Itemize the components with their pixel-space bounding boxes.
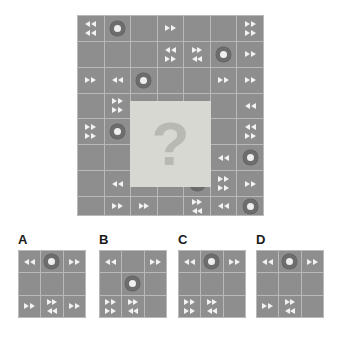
arrow-left-icon bbox=[184, 259, 189, 265]
grid-cell-blank bbox=[224, 296, 245, 317]
grid-cell-blank bbox=[78, 94, 104, 119]
arrow-row bbox=[244, 28, 256, 37]
arrow-left-icon bbox=[85, 30, 90, 36]
arrow-row bbox=[112, 76, 124, 85]
option-d-grid[interactable] bbox=[256, 250, 324, 318]
grid-cell-blank bbox=[158, 197, 184, 215]
arrow-row bbox=[206, 306, 218, 315]
grid-cell-arrows bbox=[237, 171, 263, 196]
grid-cell-blank bbox=[100, 273, 121, 294]
arrow-row bbox=[244, 19, 256, 28]
arrow-right-icon bbox=[207, 299, 212, 305]
arrow-right-icon bbox=[85, 124, 90, 130]
grid-cell-arrows bbox=[131, 197, 157, 215]
arrow-right-icon bbox=[171, 56, 176, 62]
grid-cell-arrows bbox=[179, 251, 200, 272]
arrow-row bbox=[105, 306, 117, 315]
grid-cell-blank bbox=[78, 145, 104, 170]
arrow-row bbox=[165, 54, 177, 63]
arrow-right-icon bbox=[105, 308, 110, 314]
arrow-left-icon bbox=[218, 203, 223, 209]
grid-cell-arrows bbox=[64, 296, 85, 317]
option-b-grid[interactable] bbox=[99, 250, 167, 318]
arrow-right-icon bbox=[190, 308, 195, 314]
arrow-left-icon bbox=[111, 259, 116, 265]
option-a-grid[interactable] bbox=[18, 250, 86, 318]
arrow-right-icon bbox=[85, 133, 90, 139]
grid-cell-circle bbox=[122, 273, 143, 294]
grid-cell-arrows bbox=[19, 251, 40, 272]
arrow-right-icon bbox=[245, 133, 250, 139]
option-c[interactable]: C bbox=[178, 233, 246, 318]
question-mark-glyph: ? bbox=[152, 113, 190, 175]
arrow-row bbox=[85, 132, 97, 141]
option-c-label: C bbox=[178, 233, 246, 246]
arrow-left-icon bbox=[218, 155, 223, 161]
answer-options: A B C D bbox=[0, 233, 343, 333]
arrow-right-icon bbox=[251, 133, 256, 139]
arrow-row bbox=[127, 297, 139, 306]
arrow-left-icon bbox=[268, 259, 273, 265]
grid-cell-arrows bbox=[211, 171, 237, 196]
grid-cell-blank bbox=[257, 273, 278, 294]
circle-token-icon bbox=[110, 21, 125, 36]
circle-token-icon bbox=[243, 150, 258, 165]
arrow-left-icon bbox=[171, 47, 176, 53]
grid-cell-arrows bbox=[224, 251, 245, 272]
arrow-row bbox=[85, 19, 97, 28]
grid-cell-blank bbox=[78, 171, 104, 196]
arrow-left-icon bbox=[192, 56, 197, 62]
grid-cell-blank bbox=[145, 273, 166, 294]
grid-cell-arrows bbox=[105, 197, 131, 215]
arrow-right-icon bbox=[245, 51, 250, 57]
grid-cell-blank bbox=[302, 296, 323, 317]
arrow-left-icon bbox=[128, 308, 133, 314]
grid-cell-blank bbox=[224, 273, 245, 294]
arrow-left-icon bbox=[290, 308, 295, 314]
grid-cell-arrows bbox=[237, 16, 263, 41]
arrow-row bbox=[244, 123, 256, 132]
grid-cell-blank bbox=[122, 251, 143, 272]
arrow-row bbox=[262, 257, 274, 266]
arrow-row bbox=[85, 76, 97, 85]
grid-cell-blank bbox=[201, 273, 222, 294]
arrow-right-icon bbox=[69, 303, 74, 309]
option-a[interactable]: A bbox=[18, 233, 86, 318]
arrow-row bbox=[218, 153, 230, 162]
grid-cell-blank bbox=[41, 273, 62, 294]
circle-token-icon bbox=[44, 254, 59, 269]
option-c-grid[interactable] bbox=[178, 250, 246, 318]
arrow-row bbox=[112, 202, 124, 211]
arrow-right-icon bbox=[118, 98, 123, 104]
grid-cell-arrows bbox=[211, 68, 237, 93]
grid-cell-arrows bbox=[302, 251, 323, 272]
option-d[interactable]: D bbox=[256, 233, 324, 318]
option-b[interactable]: B bbox=[99, 233, 167, 318]
arrow-left-icon bbox=[245, 124, 250, 130]
circle-token-icon bbox=[125, 276, 140, 291]
grid-cell-arrows bbox=[105, 68, 131, 93]
arrow-left-icon bbox=[85, 21, 90, 27]
missing-piece-placeholder[interactable]: ? bbox=[130, 101, 210, 187]
grid-cell-arrows bbox=[105, 94, 131, 119]
arrow-right-icon bbox=[118, 203, 123, 209]
arrow-left-icon bbox=[112, 181, 117, 187]
grid-cell-arrows bbox=[78, 119, 104, 144]
arrow-left-icon bbox=[251, 103, 256, 109]
arrow-right-icon bbox=[218, 185, 223, 191]
grid-cell-circle bbox=[105, 16, 131, 41]
arrow-row bbox=[284, 297, 296, 306]
grid-cell-arrows bbox=[145, 251, 166, 272]
arrow-right-icon bbox=[192, 47, 197, 53]
arrow-right-icon bbox=[197, 199, 202, 205]
grid-cell-arrows bbox=[237, 119, 263, 144]
arrow-right-icon bbox=[218, 176, 223, 182]
arrow-left-icon bbox=[212, 308, 217, 314]
grid-cell-circle bbox=[41, 251, 62, 272]
arrow-row bbox=[191, 54, 203, 63]
arrow-row bbox=[184, 257, 196, 266]
grid-cell-arrows bbox=[100, 296, 121, 317]
arrow-row bbox=[218, 202, 230, 211]
grid-cell-arrows bbox=[64, 251, 85, 272]
arrow-right-icon bbox=[251, 51, 256, 57]
